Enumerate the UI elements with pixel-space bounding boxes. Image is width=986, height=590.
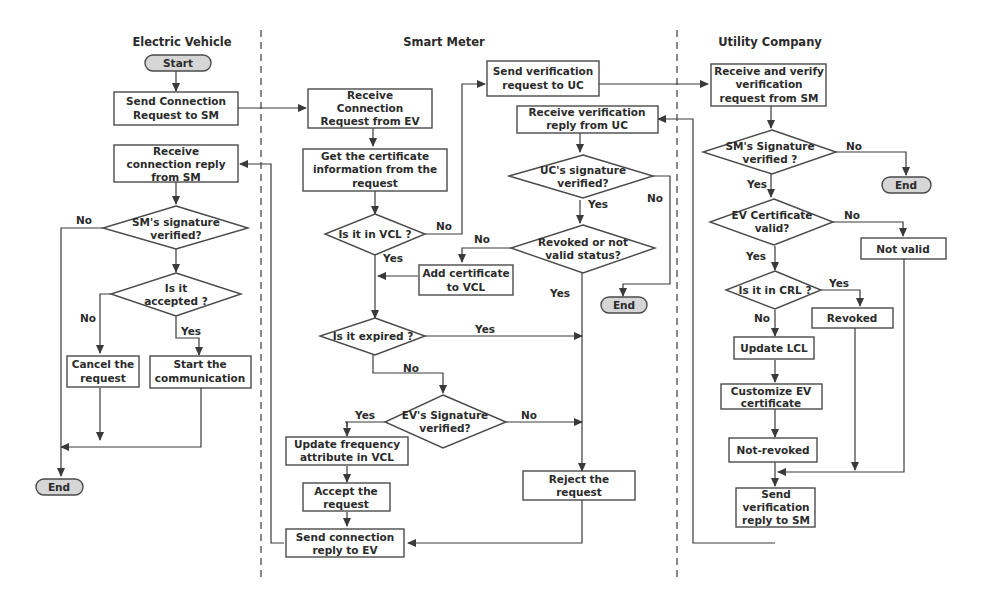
node-sm-add-certificate-to-vcl: Add certificate to VCL <box>419 265 513 295</box>
label-revoked-no: No <box>474 233 490 245</box>
svg-text:Receive and verify: Receive and verify <box>714 65 824 77</box>
node-sm-send-verification-request: Send verification request to UC <box>487 61 599 96</box>
decision-sm-is-it-expired: Is it expired ? <box>320 318 425 355</box>
node-sm-send-connection-reply: Send connection reply to EV <box>286 529 404 557</box>
svg-text:EV Certificate: EV Certificate <box>732 209 813 221</box>
svg-text:Customize EV: Customize EV <box>731 385 812 397</box>
svg-text:attribute in VCL: attribute in VCL <box>300 451 394 463</box>
svg-text:request: request <box>352 177 398 189</box>
label-vcl-no: No <box>436 220 452 232</box>
label-crl-no: No <box>754 312 770 324</box>
svg-text:valid status?: valid status? <box>545 249 621 261</box>
node-ev-start: Start <box>145 55 211 71</box>
label-cert-yes: Yes <box>745 250 766 262</box>
svg-text:Update LCL: Update LCL <box>740 342 808 354</box>
svg-text:SM's Signature: SM's Signature <box>725 140 814 152</box>
svg-text:request: request <box>556 486 602 498</box>
svg-text:Receive: Receive <box>347 89 393 101</box>
node-sm-receive-verification-reply: Receive verification reply from UC <box>517 106 658 133</box>
svg-text:verified ?: verified ? <box>743 153 798 165</box>
node-uc-receive-and-verify: Receive and verify verification request … <box>711 64 826 106</box>
node-sm-reject-request: Reject the request <box>523 471 635 500</box>
svg-text:from SM: from SM <box>151 171 201 183</box>
svg-text:verified?: verified? <box>557 177 608 189</box>
decision-uc-sm-signature-verified: SM's Signature verified ? <box>703 130 836 174</box>
decision-sm-uc-signature-verified: UC's signature verified? <box>509 155 653 198</box>
node-sm-receive-connection-request: Receive Connection Request from EV <box>308 89 432 128</box>
node-ev-send-connection-request: Send Connection Request to SM <box>114 92 238 125</box>
node-uc-update-lcl: Update LCL <box>734 337 814 359</box>
label-expired-no: No <box>403 362 419 374</box>
svg-text:Request from EV: Request from EV <box>320 115 420 127</box>
svg-text:Is it: Is it <box>165 282 187 294</box>
svg-text:connection reply: connection reply <box>127 158 226 170</box>
svg-text:valid?: valid? <box>755 222 790 234</box>
svg-text:Send: Send <box>761 488 791 500</box>
svg-text:request: request <box>80 372 126 384</box>
svg-text:EV's Signature: EV's Signature <box>402 409 488 421</box>
svg-text:Reject the: Reject the <box>549 473 609 485</box>
svg-text:Cancel the: Cancel the <box>72 358 134 370</box>
node-ev-receive-connection-reply: Receive connection reply from SM <box>114 145 238 183</box>
node-uc-not-valid: Not valid <box>861 238 946 259</box>
svg-text:reply from UC: reply from UC <box>546 119 628 131</box>
svg-text:UC's signature: UC's signature <box>540 164 626 176</box>
svg-text:Revoked: Revoked <box>827 312 878 324</box>
node-sm-update-frequency-attribute: Update frequency attribute in VCL <box>286 437 408 465</box>
svg-text:Update frequency: Update frequency <box>294 438 400 450</box>
label-crl-yes: Yes <box>828 277 849 289</box>
svg-text:Connection: Connection <box>337 102 404 114</box>
svg-text:Revoked or not: Revoked or not <box>538 236 628 248</box>
label-ev-sig-no: No <box>76 214 92 226</box>
lane-title-electric-vehicle: Electric Vehicle <box>132 35 231 49</box>
svg-text:Send connection: Send connection <box>296 531 394 543</box>
svg-text:to VCL: to VCL <box>447 281 486 293</box>
label-revoked-yes: Yes <box>549 287 570 299</box>
node-uc-end: End <box>882 177 931 193</box>
svg-text:Get the certificate: Get the certificate <box>321 150 429 162</box>
svg-text:End: End <box>613 299 635 311</box>
svg-text:reply to EV: reply to EV <box>312 544 378 556</box>
node-sm-accept-request: Accept the request <box>303 483 390 511</box>
svg-text:Accept the: Accept the <box>314 485 378 497</box>
label-ev-sig-no-sm: No <box>521 409 537 421</box>
svg-text:information from the: information from the <box>313 163 437 175</box>
svg-text:request from SM: request from SM <box>720 92 819 104</box>
decision-ev-is-it-accepted: Is it accepted ? <box>111 273 241 316</box>
node-uc-send-verification-reply: Send verification reply to SM <box>736 488 815 527</box>
decision-uc-ev-certificate-valid: EV Certificate valid? <box>710 199 833 245</box>
node-uc-customize-ev-certificate: Customize EV certificate <box>721 384 822 409</box>
svg-text:Is it expired ?: Is it expired ? <box>333 330 414 342</box>
decision-sm-revoked-or-not-valid: Revoked or not valid status? <box>511 225 655 273</box>
label-uc-sig-yes: Yes <box>587 198 608 210</box>
svg-text:Is it in CRL ?: Is it in CRL ? <box>738 284 811 296</box>
lane-title-smart-meter: Smart Meter <box>403 35 485 49</box>
svg-text:verified?: verified? <box>419 422 470 434</box>
svg-text:verification: verification <box>735 78 802 90</box>
label-uc-sm-sig-no: No <box>846 140 862 152</box>
svg-text:verification: verification <box>742 501 809 513</box>
svg-text:End: End <box>48 481 70 493</box>
node-ev-end: End <box>36 479 83 495</box>
svg-text:reply to SM: reply to SM <box>742 514 810 526</box>
svg-text:Receive verification: Receive verification <box>529 106 646 118</box>
label-ev-accepted-yes: Yes <box>180 325 201 337</box>
node-sm-get-certificate-info: Get the certificate information from the… <box>303 149 447 191</box>
label-expired-yes: Yes <box>474 323 495 335</box>
svg-text:SM's signature: SM's signature <box>132 216 220 228</box>
svg-text:Start: Start <box>163 57 193 69</box>
label-uc-sig-no: No <box>647 192 663 204</box>
svg-text:End: End <box>895 179 917 191</box>
decision-sm-is-it-in-vcl: Is it in VCL ? <box>325 214 425 255</box>
node-uc-not-revoked: Not-revoked <box>729 438 817 462</box>
svg-text:Start the: Start the <box>173 358 226 370</box>
svg-text:Send Connection: Send Connection <box>126 95 226 107</box>
svg-text:Receive: Receive <box>153 145 199 157</box>
decision-uc-is-it-in-crl: Is it in CRL ? <box>726 271 821 309</box>
label-vcl-yes: Yes <box>382 252 403 264</box>
svg-text:verified?: verified? <box>150 229 201 241</box>
svg-text:communication: communication <box>155 372 246 384</box>
label-uc-sm-sig-yes: Yes <box>746 178 767 190</box>
svg-text:Request to SM: Request to SM <box>133 109 219 121</box>
flowchart-canvas: Electric Vehicle Smart Meter Utility Com… <box>0 0 986 590</box>
